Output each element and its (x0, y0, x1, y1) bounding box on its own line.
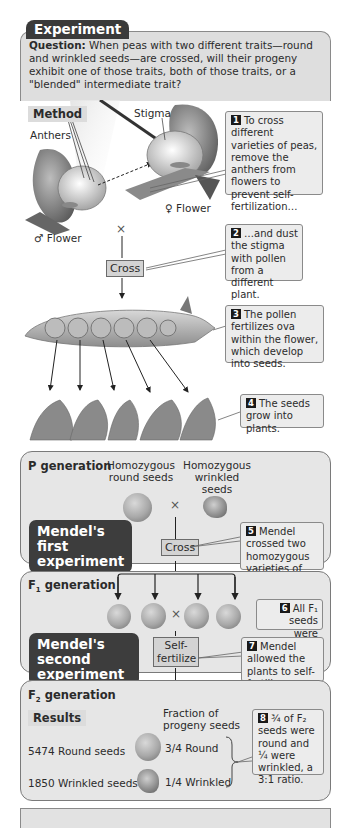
stigma-label: Stigma (134, 107, 171, 119)
wrinkled-count: 1850 Wrinkled seeds (28, 777, 138, 789)
f1-seed-icon-1 (107, 604, 131, 629)
p-generation-title: P generation (28, 459, 111, 473)
f2-generation-title: F2 generation (28, 688, 116, 704)
round-seed-icon (123, 493, 152, 522)
round-fraction: 3/4 Round (165, 742, 218, 754)
method-label: Method (28, 106, 87, 122)
step-number-7: 7 (247, 641, 257, 651)
callout-step-3: 3The pollen fertilizes ova within the fl… (225, 305, 324, 363)
f1-cross-symbol: × (171, 607, 181, 621)
conclusion-panel-top (20, 808, 331, 828)
callout-step-5: 5Mendel crossed two homozygous varieties… (240, 522, 324, 570)
wrinkled-fraction: 1/4 Wrinkled (165, 776, 231, 788)
f1-seed-icon-3 (184, 603, 209, 629)
callout-step-4: 4The seeds grow into plants. (240, 394, 324, 428)
callout-step-7: 7Mendel allowed the plants to self-ferti… (241, 637, 324, 682)
female-flower-label: ♀ Flower (165, 202, 211, 214)
f1-branch-arrows (110, 571, 240, 601)
callout-step-2: 2…and dust the stigma with pollen from a… (225, 224, 303, 281)
f1-seed-icon-2 (141, 603, 166, 629)
anthers-label: Anthers (30, 129, 71, 141)
step-number-1: 1 (231, 115, 241, 125)
callout-step-6: 6All F₁ seeds were round. (256, 599, 323, 630)
step-number-5: 5 (246, 526, 256, 536)
callout-step-8: 8¾ of F₂ seeds were round and ¼ were wri… (252, 709, 324, 775)
step-number-3: 3 (231, 309, 241, 319)
f2-round-seed-icon (135, 733, 161, 761)
fraction-header: Fraction of progeny seeds (163, 707, 243, 731)
second-experiment-badge: Mendel's second experiment (29, 633, 139, 686)
cross-box: Cross (106, 260, 144, 277)
f2-wrinkled-seed-icon (137, 769, 159, 793)
wrinkled-seed-icon (203, 496, 227, 518)
pea-plants-icon (30, 398, 215, 440)
p-callout-leader (190, 535, 240, 555)
pea-pod-icon (25, 296, 215, 347)
parent-round-label: Homozygous round seeds (105, 459, 177, 483)
step-number-6: 6 (280, 603, 290, 613)
round-count: 5474 Round seeds (28, 745, 125, 757)
step-number-4: 4 (246, 398, 256, 408)
callout-step-1: 1To cross different varieties of peas, r… (225, 111, 323, 195)
first-experiment-badge: Mendel's first experiment (29, 520, 132, 573)
f1-generation-title: F1 generation (28, 578, 116, 594)
step-number-8: 8 (258, 713, 268, 723)
p-cross-symbol: × (170, 498, 180, 512)
cross-symbol: × (116, 222, 126, 236)
experiment-tab: Experiment (26, 20, 129, 39)
question-label: Question: (29, 39, 86, 51)
step-number-2: 2 (231, 228, 241, 238)
self-fertilize-box: Self-fertilize (153, 637, 199, 667)
male-flower-label: ♂ Flower (34, 232, 82, 244)
results-brace (224, 735, 254, 790)
f1-callout-leader (198, 650, 243, 662)
f1-seed-icon-4 (216, 604, 241, 629)
parent-wrinkled-label: Homozygous wrinkled seeds (178, 459, 256, 495)
results-label: Results (28, 710, 86, 726)
question-box: Question: When peas with two different t… (20, 31, 331, 101)
